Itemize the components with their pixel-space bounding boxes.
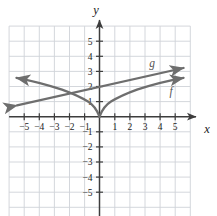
- y-tick-label: 3: [88, 67, 93, 77]
- graph-figure: −5 −4 −3 −2 −1 1 2 3 4 5 5 4 3 2 1 −1 −2…: [0, 0, 217, 216]
- y-tick-label: −2: [82, 142, 92, 152]
- x-tick-label: 4: [158, 122, 163, 132]
- coordinate-plane: −5 −4 −3 −2 −1 1 2 3 4 5 5 4 3 2 1 −1 −2…: [0, 0, 217, 216]
- x-tick-label: −5: [19, 122, 29, 132]
- y-tick-label: 4: [88, 52, 93, 62]
- curve-label-g: g: [149, 57, 155, 70]
- y-tick-label: −4: [82, 173, 92, 183]
- x-tick-label: 5: [173, 122, 178, 132]
- x-tick-label: 1: [112, 122, 117, 132]
- x-tick-label: −3: [49, 122, 59, 132]
- x-tick-label: 3: [143, 122, 148, 132]
- x-tick-label: −4: [34, 122, 44, 132]
- y-tick-label: 5: [88, 37, 93, 47]
- y-tick-label: −3: [82, 157, 92, 167]
- x-axis-label: x: [203, 122, 210, 136]
- y-axis-label: y: [91, 3, 99, 17]
- x-tick-label: 2: [128, 122, 133, 132]
- figure-background: [0, 0, 217, 216]
- x-tick-label: −2: [64, 122, 74, 132]
- y-tick-label: −1: [82, 127, 92, 137]
- y-tick-label: −5: [82, 188, 92, 198]
